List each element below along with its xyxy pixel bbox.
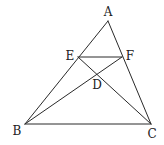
point-label-d: D [92, 78, 102, 92]
triangle-diagram: ABCDEF [0, 0, 164, 145]
segments-group [25, 21, 151, 124]
segment-bf [25, 57, 122, 124]
segment-ac [108, 21, 151, 124]
point-label-c: C [147, 127, 156, 141]
point-label-a: A [103, 5, 113, 19]
segment-ec [78, 57, 151, 124]
point-label-f: F [126, 49, 134, 63]
point-label-e: E [66, 49, 75, 63]
labels-group: ABCDEF [13, 5, 157, 141]
point-label-b: B [13, 124, 22, 138]
